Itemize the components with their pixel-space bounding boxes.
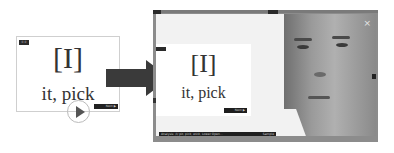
left-handle[interactable] [153, 98, 156, 103]
inner-card: [I] it, pick Next ▶ [156, 44, 251, 116]
eye-right [336, 43, 348, 47]
frame-top-bar [153, 10, 378, 13]
caption-right: Sample [263, 132, 274, 136]
eye-left [297, 45, 309, 49]
video-screen: [I] it, pick Next ▶ Analysis: /I/ pit, p… [156, 14, 376, 136]
example-words: it, pick [17, 84, 119, 104]
brow-right [332, 36, 350, 39]
brow-left [294, 38, 312, 41]
next-button[interactable]: Next ▶ [94, 104, 118, 109]
next-button[interactable]: Next ▶ [224, 108, 247, 113]
caption-bar: Analysis: /I/ pit, pick, stick, Lower Op… [159, 132, 276, 136]
close-icon[interactable]: × [363, 19, 371, 28]
resize-handle[interactable] [372, 74, 376, 79]
after-frame: [I] it, pick Next ▶ Analysis: /I/ pit, p… [153, 10, 378, 142]
mouth [308, 96, 330, 99]
phoneme-symbol: [I] [17, 43, 119, 73]
example-words: it, pick [156, 84, 251, 102]
caption-text: Analysis: /I/ pit, pick, stick, Lower Op… [161, 132, 223, 136]
nose [314, 72, 326, 77]
before-card: 0.0 [I] it, pick Next ▶ [16, 36, 120, 112]
phoneme-symbol: [I] [156, 50, 251, 78]
